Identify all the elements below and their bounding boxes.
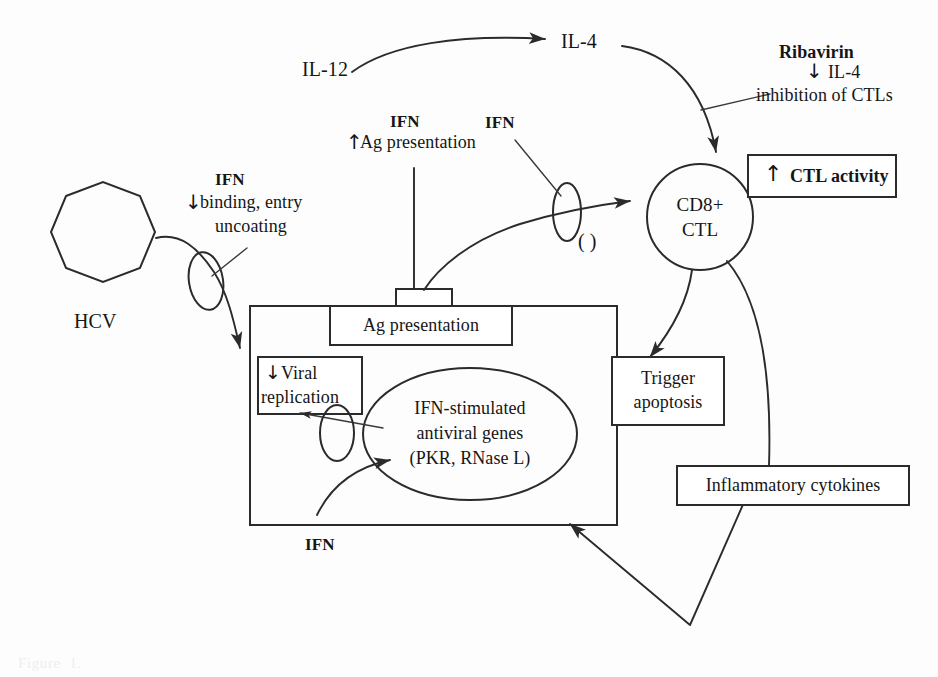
ctl-activity-up-arrow-icon: ↑ bbox=[764, 163, 782, 185]
antiviral-genes-line1: IFN-stimulated bbox=[380, 398, 560, 418]
ifn-ag-text: Ag presentation bbox=[360, 132, 476, 152]
cd8-ctl-line2: CTL bbox=[662, 219, 738, 240]
il12-to-il4-arrow bbox=[352, 38, 545, 72]
mhc-molecule-rect bbox=[396, 289, 452, 307]
ifn-binding-label: IFN bbox=[215, 170, 245, 189]
trigger-apoptosis-line2: apoptosis bbox=[612, 392, 724, 412]
viral-replication-line2: replication bbox=[261, 387, 339, 407]
ifn-ag-label: IFN bbox=[390, 112, 420, 131]
figure-canvas: IL-12 IL-4 Ribavirin ↓ IL-4 inhibition o… bbox=[0, 0, 938, 677]
inflammatory-cytokines-label: Inflammatory cytokines bbox=[677, 475, 909, 495]
figure-caption-faint: Figure 1. bbox=[18, 655, 82, 672]
il4-top-label: IL-4 bbox=[561, 30, 597, 52]
ifn-binding-line1: binding, entry bbox=[200, 192, 302, 212]
antigen-to-ctl-curve bbox=[424, 201, 630, 290]
hcv-label: HCV bbox=[74, 310, 117, 332]
ribavirin-down-arrow-icon: ↓ bbox=[806, 61, 823, 81]
ifn-bottom-label: IFN bbox=[305, 535, 335, 554]
il12-label: IL-12 bbox=[302, 58, 348, 80]
ribavirin-il4-label: IL-4 bbox=[828, 62, 860, 82]
ifn-binding-line2: uncoating bbox=[215, 216, 287, 236]
ctl-to-cytokines-curve bbox=[727, 261, 769, 466]
ribavirin-effect-label: inhibition of CTLs bbox=[756, 85, 893, 105]
viral-replication-line1: Viral bbox=[281, 363, 317, 383]
il4-to-ctl-arrow bbox=[622, 46, 716, 152]
antiviral-genes-line3: (PKR, RNase L) bbox=[380, 448, 560, 468]
trigger-apoptosis-line1: Trigger bbox=[612, 368, 724, 388]
genes-to-replication-arrow bbox=[300, 413, 383, 428]
cd8-ctl-circle bbox=[647, 164, 753, 270]
hcv-octagon-shape bbox=[51, 182, 155, 282]
cytokines-to-cell-arrow bbox=[570, 500, 745, 625]
ifn-ctl-label: IFN bbox=[485, 113, 515, 132]
viral-replication-down-arrow-icon: ↓ bbox=[265, 363, 281, 382]
ifn-entry-block-ellipse bbox=[185, 250, 228, 313]
parens-marker-label: ( ) bbox=[578, 230, 597, 252]
ag-presentation-label: Ag presentation bbox=[330, 315, 512, 335]
ctl-activity-label: CTL activity bbox=[790, 166, 889, 186]
ctl-to-apoptosis-curve bbox=[650, 270, 692, 357]
antiviral-genes-line2: antiviral genes bbox=[380, 423, 560, 443]
cd8-ctl-line1: CD8+ bbox=[662, 194, 738, 215]
ifn-ctl-leader-line bbox=[515, 140, 561, 196]
